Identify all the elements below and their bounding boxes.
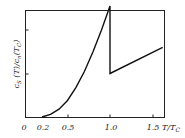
x-axis-label: T/TC: [162, 123, 180, 133]
x-tick-label-1.5: 1.5: [147, 123, 160, 132]
specific-heat-chart: 0 0.2 0.5 1.0 1.5 T/TC cS (T)/cn(TC): [0, 0, 185, 138]
y-axis-label: cS (T)/cn(TC): [12, 40, 22, 89]
data-series-line: [42, 6, 163, 117]
plot-frame: [26, 11, 165, 118]
x-tick-label-0.2: 0.2: [37, 123, 50, 132]
x-tick-label-1.0: 1.0: [105, 123, 118, 132]
x-tick-label-0.5: 0.5: [62, 123, 75, 132]
x-tick-label-0: 0: [21, 123, 26, 132]
